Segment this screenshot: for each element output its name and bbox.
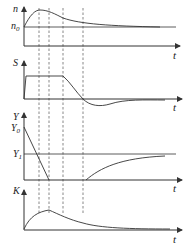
Y-axis-label: Y bbox=[13, 111, 20, 122]
K-curve bbox=[24, 210, 170, 229]
S-axis-label: S bbox=[13, 57, 18, 68]
n-axis-label: n bbox=[13, 3, 18, 14]
K-time-label: t bbox=[173, 233, 177, 245]
n0-label: n0 bbox=[11, 20, 20, 33]
Y1-label: Y1 bbox=[13, 148, 22, 161]
panel-Y: Y Y0 Y1 t bbox=[11, 111, 182, 194]
K-axis-label: K bbox=[12, 185, 21, 196]
panel-n: n n0 t bbox=[11, 3, 180, 61]
S-time-label: t bbox=[173, 101, 177, 113]
Y-time-label: t bbox=[173, 182, 177, 194]
timing-diagram: n n0 t S t Y Y0 Y1 t K t bbox=[0, 0, 193, 252]
S-curve bbox=[24, 76, 165, 106]
panel-S: S t bbox=[13, 57, 182, 113]
dashed-markers bbox=[39, 8, 83, 215]
n-time-label: t bbox=[173, 49, 177, 61]
Y-decrease-line bbox=[24, 127, 49, 180]
Y0-label: Y0 bbox=[11, 122, 21, 135]
Y-recovery-curve bbox=[86, 156, 165, 180]
panel-K: K t bbox=[12, 185, 182, 245]
n-curve bbox=[24, 10, 160, 27]
